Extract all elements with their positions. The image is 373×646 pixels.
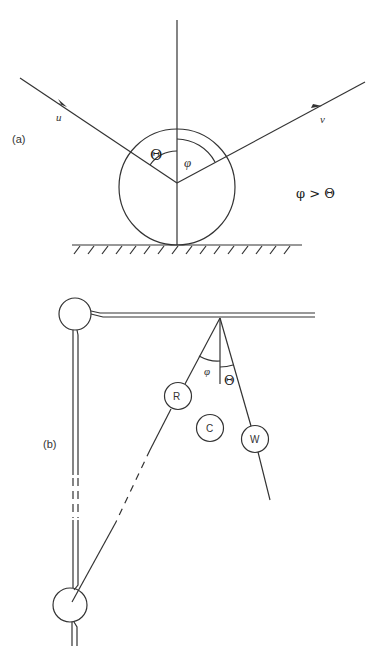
corner-ball-bottom — [53, 588, 87, 622]
incoming-vector-u — [20, 78, 177, 183]
label-c: C — [206, 423, 213, 434]
line-to-r-top — [185, 318, 220, 384]
line-to-w-top — [220, 318, 251, 426]
top-rail-lower — [91, 314, 315, 317]
figure-canvas: (a) u v Θ φ φ > Θ (b) R C W φ Θ — [0, 0, 373, 646]
outgoing-vector-v — [177, 82, 365, 183]
phi-arc — [177, 139, 215, 162]
corner-ball-top — [59, 298, 91, 330]
label-v: v — [320, 113, 325, 125]
left-rail-top-inner — [77, 330, 78, 475]
top-rail — [91, 311, 315, 313]
label-w: W — [250, 434, 260, 445]
line-r-solid-1 — [150, 409, 171, 450]
panel-b — [53, 298, 315, 646]
left-rail-below-inner — [74, 622, 77, 646]
left-rail-bottom-inner — [74, 520, 78, 590]
line-r-dashed — [116, 450, 150, 522]
label-theta-a: Θ — [150, 146, 162, 164]
label-u: u — [56, 111, 62, 123]
label-r: R — [173, 391, 180, 402]
ground-hatching — [74, 246, 290, 254]
theta-arc-b — [220, 365, 233, 367]
line-w-below — [258, 452, 270, 500]
panel-a-label: (a) — [12, 133, 25, 145]
label-theta-b: Θ — [224, 373, 235, 388]
label-phi-b: φ — [204, 365, 210, 377]
panel-a — [20, 20, 365, 254]
phi-arc-b — [199, 356, 220, 361]
relation-label: φ > Θ — [296, 186, 335, 201]
panel-b-label: (b) — [43, 438, 56, 450]
label-phi-a: φ — [184, 155, 191, 170]
figure-svg: (a) u v Θ φ φ > Θ (b) R C W φ Θ — [0, 0, 373, 646]
